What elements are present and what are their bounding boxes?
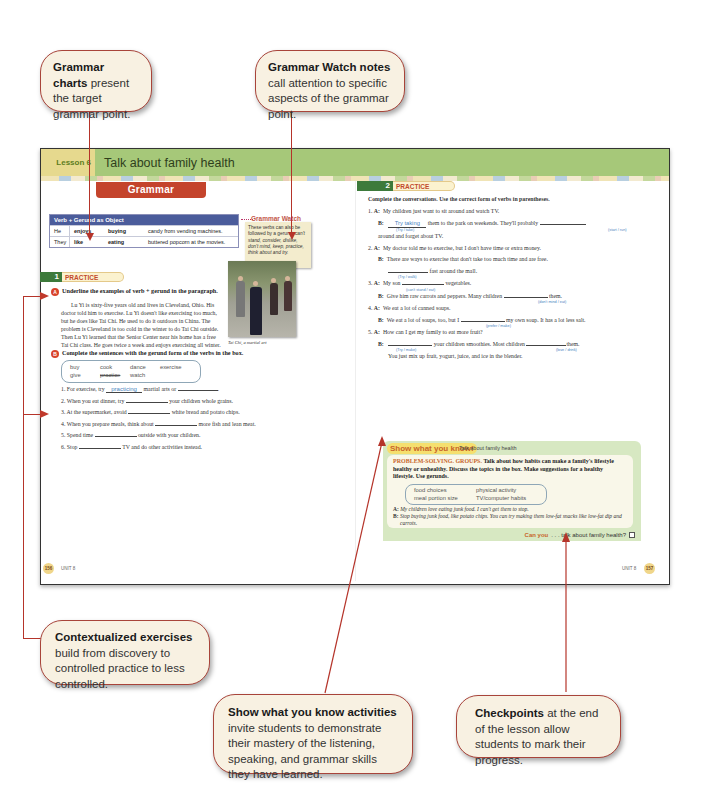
tai-chi-photo <box>228 261 296 337</box>
item-number: 3. <box>368 280 372 286</box>
lesson-bar: Lesson 6 Talk about family health <box>41 149 669 176</box>
conversation-b: B:There are ways to exercise that don't … <box>368 256 658 280</box>
reading-paragraph: Lu Yi is sixty-five years old and lives … <box>51 301 221 349</box>
speaker-a: A: <box>374 305 380 311</box>
exercise-item: 1. For exercise, try practicing martial … <box>61 386 341 398</box>
item-text: At the supermarket, avoid <box>67 409 127 415</box>
page-gutter <box>355 181 356 581</box>
swyk-dialog: A: My children love eating junk food. I … <box>393 506 623 526</box>
line-a: vegetables. <box>445 280 471 286</box>
callout-grammar-charts: Grammar charts present the target gramma… <box>40 50 152 112</box>
grammar-chart: Verb + Gerund as Object He enjoys buying… <box>49 214 239 248</box>
item-text: more fish and lean meat. <box>199 421 256 427</box>
word: watch <box>130 372 160 380</box>
item-number: 6. <box>61 444 65 450</box>
item-number: 5. <box>368 329 372 335</box>
answer-blank[interactable] <box>402 284 444 285</box>
line-b: them. <box>549 293 562 299</box>
word-crossed-out: practice <box>100 372 130 380</box>
section-label: PRACTICE <box>62 272 124 282</box>
answer-blank[interactable] <box>540 224 586 225</box>
connector-line <box>291 112 292 236</box>
dialog-line-b: Stop buying junk food, like potato chips… <box>400 513 622 526</box>
conversation-item: 5. A:How can I get my family to eat more… <box>368 329 658 337</box>
textbook-spread: Lesson 6 Talk about family health Gramma… <box>40 148 670 585</box>
exercise-item: 2. When you eat dinner, try your childre… <box>61 398 341 410</box>
conversation-b: B: Try taking them to the park on weeken… <box>368 220 658 241</box>
verb-hint: (Try / walk) <box>398 274 417 282</box>
checkpoint-can-you: Can you <box>525 532 549 538</box>
line-b: There are ways to exercise that don't ta… <box>387 256 548 262</box>
cell-subject: They <box>50 237 70 247</box>
speaker-a: A: <box>374 245 380 251</box>
arrow-down-icon <box>288 232 296 240</box>
conversation-item: 2. A:My doctor told me to exercise, but … <box>368 245 658 253</box>
callout-text: invite students to demonstrate their mas… <box>228 722 381 781</box>
conversation-item: 4. A:We eat a lot of canned soups. <box>368 305 658 313</box>
speaker-a: A: <box>374 208 380 214</box>
speaker-b: B: <box>378 341 384 347</box>
item-number: 2. <box>368 245 372 251</box>
exercise-a-instruction: Underline the examples of verb + gerund … <box>62 287 218 294</box>
topic: physical activity <box>476 487 516 493</box>
show-what-you-know-panel: Show what you know! Talk about family he… <box>383 441 641 541</box>
callout-bold: Contextualized exercises <box>55 631 192 643</box>
word: buy <box>70 364 100 372</box>
checkpoint-checkbox[interactable] <box>629 532 635 538</box>
word: give <box>70 372 100 380</box>
line-b: my own soup. It has a lot less salt. <box>506 317 586 323</box>
connector-line <box>23 296 24 639</box>
answer-blank[interactable]: practicing <box>106 386 142 393</box>
callout-bold: Show what you know activities <box>228 706 397 718</box>
word: dance <box>130 364 160 372</box>
line-a: We eat a lot of canned soups. <box>383 305 451 311</box>
answer-blank[interactable] <box>461 321 505 322</box>
item-number: 5. <box>61 432 65 438</box>
callout-show-what-you-know: Show what you know activities invite stu… <box>213 694 413 774</box>
line-a: My doctor told me to exercise, but I don… <box>383 245 541 251</box>
word: cook <box>100 364 130 372</box>
cell-gerund: buying <box>104 228 144 234</box>
item-text: For exercise, try <box>67 386 105 392</box>
answer-blank[interactable] <box>388 272 428 273</box>
callout-text: call attention to specific aspects of th… <box>268 77 389 120</box>
practice-1-header: 1 PRACTICE <box>40 272 124 282</box>
conversation-b: B:We eat a lot of soups, too, but I my o… <box>368 317 658 330</box>
verb-hint: (don't mind / eat) <box>538 299 566 307</box>
arrow-down-icon <box>86 233 94 241</box>
item-text: your children whole grains. <box>169 398 233 404</box>
answer-blank[interactable] <box>526 345 566 346</box>
item-number: 1. <box>368 208 372 214</box>
line-a: How can I get my family to eat more frui… <box>383 329 483 335</box>
topic: food choices <box>414 487 476 495</box>
answer-blank[interactable] <box>95 436 137 437</box>
answer-blank[interactable] <box>126 402 168 403</box>
exercise-item: 5. Spend time outside with your children… <box>61 432 341 444</box>
verb-hint: (Try / make) <box>396 347 416 355</box>
answer-blank[interactable] <box>388 345 432 346</box>
answer-blank[interactable] <box>178 390 218 391</box>
grammar-banner: Grammar <box>96 182 206 198</box>
unit-label-right: UNIT 8 <box>622 566 636 571</box>
lesson-title: Talk about family health <box>95 156 235 170</box>
item-text: When you prepare meals, think about <box>67 421 154 427</box>
callout-checkpoints: Checkpoints at the end of the lesson all… <box>456 695 621 758</box>
answer-blank[interactable] <box>128 413 170 414</box>
page-number-right: 157 <box>644 563 655 574</box>
item-text: outside with your children. <box>138 432 200 438</box>
speaker-b: B: <box>378 317 384 323</box>
item-text: white bread and potato chips. <box>172 409 240 415</box>
grammar-watch-title: Grammar Watch <box>251 215 301 222</box>
answer-blank[interactable] <box>79 448 121 449</box>
answer-blank[interactable] <box>504 297 548 298</box>
grammar-chart-header: Verb + Gerund as Object <box>50 215 238 225</box>
answer-blank[interactable] <box>155 425 197 426</box>
speaker-a: A: <box>374 280 380 286</box>
exercise-a: AUnderline the examples of verb + gerund… <box>51 287 221 349</box>
checkpoint-text: . . . talk about family health? <box>551 532 626 538</box>
cell-object: buttered popcorn at the movies. <box>144 239 229 245</box>
show-what-you-know-subtitle: Talk about family health <box>459 445 516 451</box>
exercise-b-list: 1. For exercise, try practicing martial … <box>61 386 341 455</box>
item-number: 1. <box>61 386 65 392</box>
checkpoint: Can you . . . talk about family health? <box>525 532 635 538</box>
